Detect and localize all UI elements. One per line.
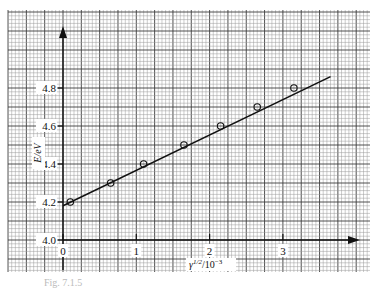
x-tick-label: 0 — [60, 245, 66, 257]
graph-paper-chart: 4.04.24.44.64.80123 E/eV γ1/2/10−3 — [0, 0, 382, 289]
y-tick-label: 4.0 — [42, 234, 56, 246]
figure-caption: Fig. 7.1.5 — [44, 277, 82, 288]
y-tick-label: 4.2 — [42, 196, 56, 208]
y-axis-label: E/eV — [32, 141, 43, 163]
x-tick-label: 2 — [207, 245, 213, 257]
y-tick-label: 4.6 — [42, 120, 56, 132]
x-tick-label: 1 — [134, 245, 140, 257]
x-tick-label: 3 — [280, 245, 286, 257]
y-tick-label: 4.8 — [42, 82, 56, 94]
